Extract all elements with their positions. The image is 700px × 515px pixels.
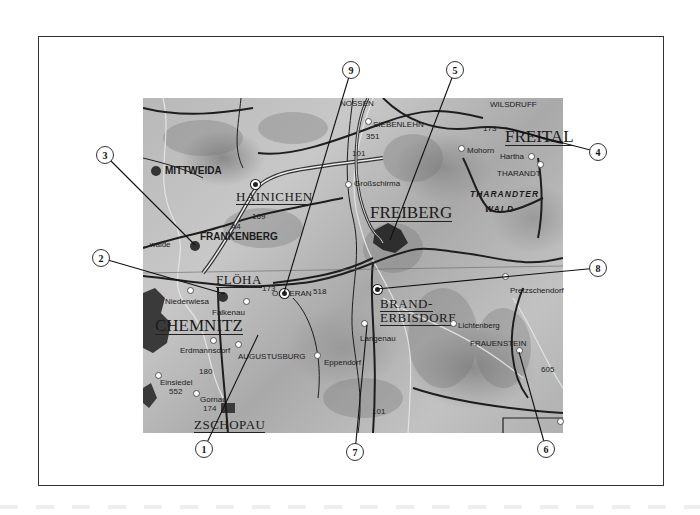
town-marker-icon — [502, 273, 509, 280]
town-marker-icon — [314, 352, 321, 359]
road-number: 518 — [313, 288, 326, 296]
city-label-zschopau: ZSCHOPAU — [194, 418, 265, 433]
town-marker-icon — [450, 320, 457, 327]
callout-3: 3 — [96, 146, 114, 164]
area-label-tharandter-wald-2: WALD — [485, 205, 514, 214]
town-label-gornau: Gornau — [200, 396, 227, 404]
town-label-einsiedel: Einsiedel — [160, 379, 192, 387]
town-marker-icon — [155, 372, 162, 379]
town-label-siebenlehn: SIEBENLEHN — [373, 121, 424, 129]
road-number: 173 — [483, 125, 496, 133]
road-number: 173 — [262, 285, 275, 293]
town-label-hartha: Hartha — [500, 153, 524, 161]
city-marker-icon — [151, 166, 161, 176]
town-marker-icon — [557, 418, 564, 425]
area-label-tharandter-wald-1: THARANDTER — [470, 190, 539, 199]
town-marker-icon — [516, 347, 523, 354]
town-label-pretzschendorf: Pretzschendorf — [510, 287, 564, 295]
town-marker-icon — [537, 161, 544, 168]
road-number: A4 — [231, 223, 241, 231]
town-marker-icon — [243, 298, 250, 305]
town-label-eppendorf: Eppendorf — [324, 359, 361, 367]
town-label-grossschirma: Großschirma — [354, 180, 400, 188]
district-town-marker-icon — [373, 285, 382, 294]
callout-6: 6 — [537, 440, 555, 458]
town-label-oederan: OEDERAN — [272, 290, 312, 298]
town-marker-icon — [210, 337, 217, 344]
city-label-freital: FREITAL — [505, 128, 574, 146]
town-marker-icon — [193, 390, 200, 397]
district-town-marker-icon — [251, 180, 260, 189]
town-marker-icon — [235, 341, 242, 348]
town-label-mohorn: Mohorn — [467, 147, 494, 155]
page-footer-decoration — [0, 505, 700, 509]
road-number: 180 — [199, 368, 212, 376]
town-marker-icon — [528, 153, 535, 160]
town-label-frankenberg: FRANKENBERG — [200, 232, 278, 242]
town-marker-icon — [187, 287, 194, 294]
town-label-lichtenberg: Lichtenberg — [458, 322, 500, 330]
town-label-wald: ...walde — [143, 241, 171, 249]
city-marker-icon — [218, 292, 228, 302]
road-number: 552 — [169, 388, 182, 396]
district-town-marker-icon — [280, 289, 289, 298]
town-label-nossen: NOSSEN — [340, 100, 374, 108]
town-label-niederwiesa: Niederwiesa — [165, 298, 209, 306]
road-number: 101 — [372, 408, 385, 416]
town-label-erdmannsdorf: Erdmannsdorf — [180, 347, 230, 355]
city-label-floeha: FLÖHA — [216, 273, 262, 288]
callout-7: 7 — [346, 443, 364, 461]
town-label-langenau: Langenau — [360, 335, 396, 343]
road-number: 169 — [252, 213, 265, 221]
callout-5: 5 — [446, 61, 464, 79]
callout-8: 8 — [589, 259, 607, 277]
city-label-brand-erbisdorf-2: ERBISDORF — [380, 311, 456, 326]
city-label-chemnitz: CHEMNITZ — [155, 317, 243, 335]
town-label-wilsdruff: WILSDRUFF — [490, 101, 537, 109]
callout-1: 1 — [195, 440, 213, 458]
city-label-freiberg: FREIBERG — [370, 204, 452, 222]
town-label-tharandt: THARANDT — [497, 170, 541, 178]
callout-9: 9 — [342, 61, 360, 79]
town-marker-icon — [345, 181, 352, 188]
town-label-augustusburg: AUGUSTUSBURG — [238, 353, 306, 361]
callout-2: 2 — [92, 249, 110, 267]
road-number: 351 — [366, 133, 379, 141]
callout-4: 4 — [589, 143, 607, 161]
road-number: 174 — [203, 405, 216, 413]
town-label-mittweida: MITTWEIDA — [165, 166, 222, 176]
town-label-falkenau: Falkenau — [212, 309, 245, 317]
city-label-hainichen: HAINICHEN — [236, 190, 313, 205]
town-marker-icon — [361, 320, 368, 327]
road-number: 101 — [352, 150, 365, 158]
town-marker-icon — [458, 145, 465, 152]
road-number: 605 — [541, 366, 554, 374]
town-marker-icon — [365, 118, 372, 125]
city-marker-icon — [190, 241, 200, 251]
